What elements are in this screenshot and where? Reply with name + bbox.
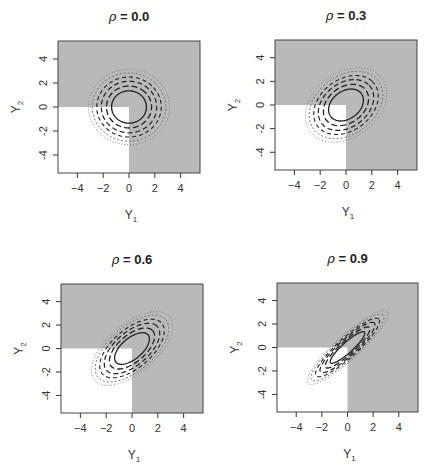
panel-rho-0-9: −4−2024-4-2024ρ = 0.9Y1Y2 (228, 251, 418, 463)
y-tick-label: 0 (254, 102, 266, 108)
x-axis-label: Y1 (343, 447, 356, 463)
contour-figure: −4−2024-4-2024ρ = 0.0Y1Y2−4−2024-4-2024ρ… (0, 0, 427, 470)
panel-rho-0-0: −4−2024-4-2024ρ = 0.0Y1Y2 (9, 9, 200, 224)
y-tick-label: 2 (256, 321, 268, 327)
y-tick-label: 4 (37, 56, 49, 62)
y-axis: -4-2024 (254, 55, 275, 157)
x-tick-label: 4 (178, 182, 184, 194)
y-axis: -4-2024 (256, 298, 277, 400)
x-tick-label: 0 (126, 182, 132, 194)
x-tick-label: −2 (314, 179, 327, 191)
y-tick-label: 0 (40, 345, 52, 351)
y-tick-label: -2 (40, 367, 52, 377)
x-axis-label: Y1 (128, 448, 141, 464)
x-tick-label: −4 (290, 421, 303, 433)
x-axis: −4−2024 (71, 173, 184, 194)
panel-title: ρ = 0.0 (108, 9, 150, 24)
x-tick-label: −4 (71, 182, 84, 194)
x-tick-label: −2 (100, 422, 113, 434)
panel-title: ρ = 0.6 (111, 252, 153, 267)
unshaded-quadrant (277, 348, 348, 413)
x-tick-label: −2 (316, 421, 329, 433)
y-tick-label: -4 (37, 150, 49, 160)
y-tick-label: -2 (37, 126, 49, 136)
y-tick-label: -4 (254, 147, 266, 157)
y-axis: -4-2024 (37, 56, 58, 160)
panel-rho-0-6: −4−2024-4-2024ρ = 0.6Y1Y2 (12, 252, 203, 464)
x-tick-label: 2 (369, 179, 375, 191)
panel-rho-0-3: −4−2024-4-2024ρ = 0.3Y1Y2 (226, 8, 417, 221)
x-tick-label: 2 (370, 421, 376, 433)
y-axis-label: Y2 (12, 342, 28, 355)
x-tick-label: 0 (129, 422, 135, 434)
y-axis: -4-2024 (40, 299, 61, 401)
x-axis-label: Y1 (342, 205, 355, 221)
x-tick-label: 4 (395, 179, 401, 191)
y-axis-label: Y2 (226, 98, 242, 111)
x-tick-label: −4 (288, 179, 301, 191)
y-tick-label: 2 (254, 78, 266, 84)
y-tick-label: 4 (40, 299, 52, 305)
x-tick-label: 0 (343, 179, 349, 191)
x-tick-label: 0 (344, 421, 350, 433)
panel-title: ρ = 0.9 (326, 251, 368, 266)
x-axis: −4−2024 (288, 170, 401, 191)
x-tick-label: 4 (396, 421, 402, 433)
x-tick-label: 2 (155, 422, 161, 434)
y-tick-label: 2 (40, 322, 52, 328)
y-tick-label: -2 (256, 366, 268, 376)
unshaded-quadrant (61, 349, 132, 414)
x-tick-label: −2 (97, 182, 110, 194)
y-tick-label: -4 (256, 390, 268, 400)
y-tick-label: 2 (37, 80, 49, 86)
x-axis-label: Y1 (125, 208, 138, 224)
y-tick-label: -4 (40, 391, 52, 401)
x-axis: −4−2024 (290, 412, 402, 433)
panel-title: ρ = 0.3 (325, 8, 367, 23)
x-tick-label: 4 (181, 422, 187, 434)
x-tick-label: −4 (74, 422, 87, 434)
x-tick-label: 2 (152, 182, 158, 194)
y-tick-label: -2 (254, 124, 266, 134)
x-axis: −4−2024 (74, 413, 187, 434)
y-tick-label: 4 (254, 55, 266, 61)
y-tick-label: 0 (256, 344, 268, 350)
y-axis-label: Y2 (228, 341, 244, 354)
unshaded-quadrant (275, 105, 346, 170)
y-axis-label: Y2 (9, 100, 25, 113)
y-tick-label: 0 (37, 104, 49, 110)
y-tick-label: 4 (256, 298, 268, 304)
